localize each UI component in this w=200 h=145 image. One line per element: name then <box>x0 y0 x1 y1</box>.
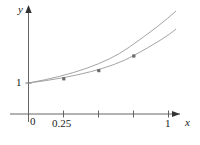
x-axis-arrowhead <box>172 111 180 117</box>
lower-curve <box>29 29 177 83</box>
x-axis-tick-label-1: 1 <box>165 118 171 129</box>
origin-label: 0 <box>30 116 36 127</box>
graph-figure: 0 1 0.25 1 y x <box>0 0 200 145</box>
y-axis-tick-label-1: 1 <box>16 77 22 88</box>
data-point-marker <box>97 69 100 72</box>
x-axis-tick-label-025: 0.25 <box>52 118 71 129</box>
y-axis-label: y <box>18 4 23 15</box>
upper-curve <box>29 11 177 83</box>
y-axis-arrowhead <box>25 5 31 13</box>
data-point-marker <box>62 77 65 80</box>
data-point-marker <box>132 54 135 57</box>
x-axis-label: x <box>185 117 190 128</box>
